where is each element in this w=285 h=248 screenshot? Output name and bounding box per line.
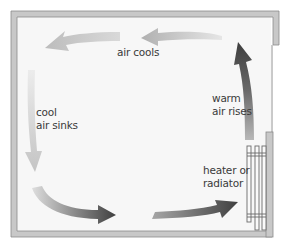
label-air-sinks-line2: air sinks — [36, 119, 78, 132]
radiator — [247, 146, 266, 230]
label-air-rises-line2: air rises — [212, 105, 252, 118]
right-lower-wall — [266, 132, 273, 237]
label-warm-line1: warm — [212, 92, 252, 105]
label-air-cools: air cools — [117, 46, 159, 59]
label-cool-line1: cool — [36, 106, 78, 119]
convection-diagram: air cools cool air sinks warm air rises … — [0, 0, 285, 248]
label-heater-line1: heater or — [203, 164, 250, 177]
label-cool-air-sinks: cool air sinks — [36, 106, 78, 132]
label-heater-or-radiator: heater or radiator — [203, 164, 250, 190]
label-warm-air-rises: warm air rises — [212, 92, 252, 118]
label-radiator-line2: radiator — [203, 177, 250, 190]
